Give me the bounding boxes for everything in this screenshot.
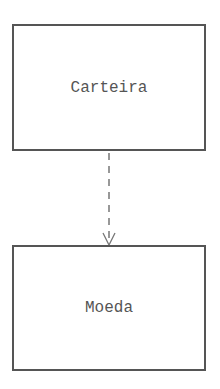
class-label-moeda: Moeda — [85, 299, 133, 317]
class-box-moeda: Moeda — [12, 245, 206, 371]
class-label-carteira: Carteira — [71, 79, 148, 97]
open-arrowhead-icon — [103, 233, 115, 245]
class-box-carteira: Carteira — [12, 24, 206, 151]
